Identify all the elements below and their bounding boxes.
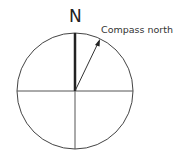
- arrowhead-icon: [95, 39, 100, 47]
- compass-north-arrow: [75, 41, 99, 91]
- compass-north-label: Compass north: [101, 25, 173, 35]
- north-label: N: [69, 8, 82, 25]
